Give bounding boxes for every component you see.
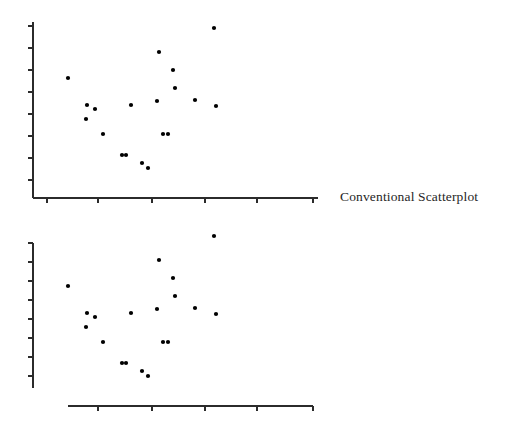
panel-label-conventional-scatterplot: Conventional Scatterplot xyxy=(340,189,478,205)
panel-range-frame: Range-Frame xyxy=(0,208,506,444)
conventional-scatterplot-plot xyxy=(0,0,506,215)
range-frame-plot xyxy=(0,208,506,444)
panel-conventional-scatterplot: Conventional Scatterplot xyxy=(0,0,506,215)
tufte-range-frame-figure: Conventional Scatterplot Range-Frame xyxy=(0,0,506,444)
